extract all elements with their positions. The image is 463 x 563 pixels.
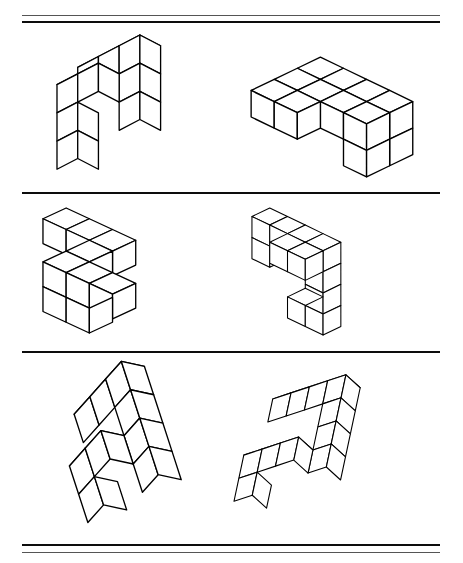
figure-2-left <box>38 203 141 338</box>
cube <box>275 434 314 473</box>
cube <box>288 242 324 280</box>
top-rule-upper <box>22 15 440 16</box>
worksheet-page: Mental Rotation Test Sheet <box>0 0 463 563</box>
figure-1-left <box>52 30 166 185</box>
figure-2-right <box>248 204 345 339</box>
divider-rule-2 <box>22 351 440 353</box>
figure-3-right <box>227 353 367 537</box>
bottom-rule-lower <box>22 552 440 553</box>
figure-1-right <box>246 52 418 182</box>
bottom-rule-upper <box>22 544 440 546</box>
top-rule-lower <box>22 21 440 23</box>
figure-3-left <box>37 349 195 541</box>
divider-rule-1 <box>22 192 440 194</box>
cube <box>274 90 320 139</box>
